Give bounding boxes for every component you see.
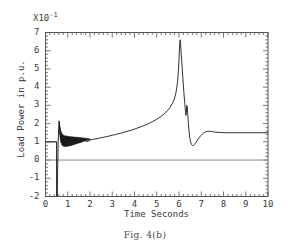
x-tick-label: 8 <box>217 199 231 209</box>
y-tick-label: 1 <box>26 136 40 146</box>
y-tick-label: 5 <box>26 63 40 73</box>
x-tick-label: 6 <box>172 199 186 209</box>
y-tick-label: 3 <box>26 99 40 109</box>
y-tick-label: 4 <box>26 81 40 91</box>
x-tick-label: 0 <box>39 199 53 209</box>
y-axis-exponent-label: X10-1 <box>33 11 58 23</box>
x-tick-label: 3 <box>105 199 119 209</box>
x-tick-label: 4 <box>128 199 142 209</box>
x-tick-label: 5 <box>150 199 164 209</box>
x-tick-label: 2 <box>83 199 97 209</box>
x-tick-label: 10 <box>261 199 275 209</box>
y-tick-label: 6 <box>26 45 40 55</box>
y-tick-label: -1 <box>26 172 40 182</box>
y-tick-label: 2 <box>26 118 40 128</box>
x-tick-label: 7 <box>194 199 208 209</box>
x-tick-label: 9 <box>239 199 253 209</box>
y-tick-label: -2 <box>26 191 40 201</box>
y-axis-title: Load Power in p.u. <box>16 44 26 174</box>
x-axis-title: Time Seconds <box>45 209 268 219</box>
x-tick-label: 1 <box>61 199 75 209</box>
figure-caption: Fig. 4(b) <box>0 230 290 240</box>
y-tick-label: 7 <box>26 27 40 37</box>
y-tick-label: 0 <box>26 154 40 164</box>
